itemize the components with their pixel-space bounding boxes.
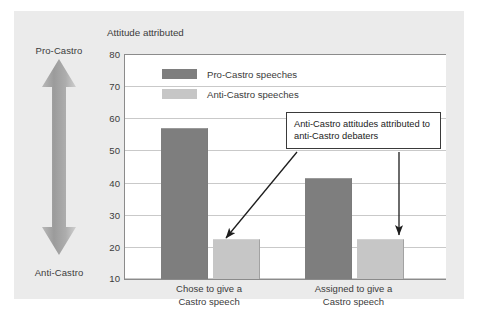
y-axis-tick-label: 40 (109, 177, 120, 188)
bar-fill (357, 239, 404, 279)
y-axis-tick-label: 50 (109, 145, 120, 156)
figure-panel: Pro-Castro Anti-Castro Attitude attribut… (14, 11, 464, 299)
bar-fill (161, 128, 208, 279)
x-axis-category-label: Chose to give aCastro speech (134, 283, 284, 308)
bar (305, 178, 352, 279)
legend-item: Pro-Castro speeches (162, 66, 299, 82)
legend-swatch-anti-castro (162, 89, 197, 99)
y-axis-tick-label: 60 (109, 113, 120, 124)
y-axis-tick-label: 70 (109, 81, 120, 92)
bar (357, 239, 404, 279)
pole-label-low: Anti-Castro (14, 267, 104, 278)
pole-label-high: Pro-Castro (14, 45, 104, 56)
legend: Pro-Castro speeches Anti-Castro speeches (162, 66, 299, 106)
x-axis-category-label: Assigned to give aCastro speech (279, 283, 429, 308)
legend-item: Anti-Castro speeches (162, 86, 299, 102)
legend-swatch-pro-castro (162, 69, 197, 79)
chart-title: Attitude attributed (107, 27, 184, 38)
gridline: 80 (125, 54, 446, 55)
bar (213, 239, 260, 279)
bar (161, 128, 208, 279)
annotation-callout: Anti-Castro attitudes attributed to anti… (286, 112, 441, 149)
bar-fill (213, 239, 260, 279)
legend-label-pro-castro: Pro-Castro speeches (207, 69, 297, 80)
y-axis-tick-label: 80 (109, 49, 120, 60)
bar-fill (305, 178, 352, 279)
y-axis-tick-label: 20 (109, 241, 120, 252)
legend-label-anti-castro: Anti-Castro speeches (207, 89, 299, 100)
bipolar-arrow-icon (40, 59, 78, 255)
y-axis-tick-label: 30 (109, 209, 120, 220)
y-axis-tick-label: 10 (109, 273, 120, 284)
